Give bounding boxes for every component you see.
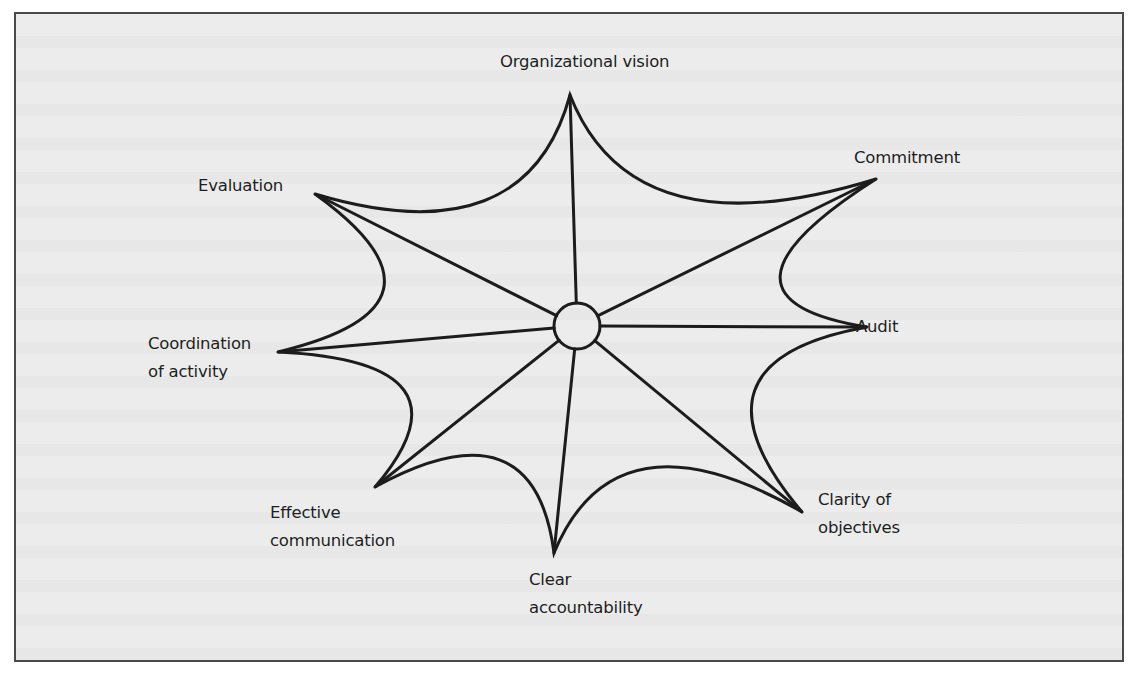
spoke-audit — [600, 326, 867, 327]
label-text: Evaluation — [198, 176, 283, 195]
spoke-effective-communication — [375, 340, 559, 487]
label-clear-accountability: Clear accountability — [529, 566, 643, 622]
label-effective-communication: Effective communication — [270, 499, 395, 555]
spokes — [278, 95, 876, 553]
label-line-2: objectives — [818, 514, 900, 542]
label-clarity-of-objectives: Clarity of objectives — [818, 486, 900, 542]
label-line-2: accountability — [529, 594, 643, 622]
web-outline — [278, 95, 876, 553]
label-text: Audit — [856, 317, 898, 336]
spoke-clear-accountability — [554, 349, 575, 553]
label-line-1: Clarity of — [818, 486, 900, 514]
label-text: Commitment — [854, 148, 960, 167]
label-line-1: Clear — [529, 566, 643, 594]
label-line-2: of activity — [148, 358, 251, 386]
label-commitment: Commitment — [854, 144, 960, 172]
label-line-2: communication — [270, 527, 395, 555]
label-line-1: Coordination — [148, 330, 251, 358]
spoke-commitment — [598, 179, 876, 316]
label-audit: Audit — [856, 313, 898, 341]
label-text: Organizational vision — [500, 52, 669, 71]
center-hub-circle — [554, 303, 600, 349]
label-evaluation: Evaluation — [198, 172, 283, 200]
spoke-organizational-vision — [570, 95, 576, 303]
label-line-1: Effective — [270, 499, 395, 527]
label-organizational-vision: Organizational vision — [500, 48, 669, 76]
label-coordination-of-activity: Coordination of activity — [148, 330, 251, 386]
